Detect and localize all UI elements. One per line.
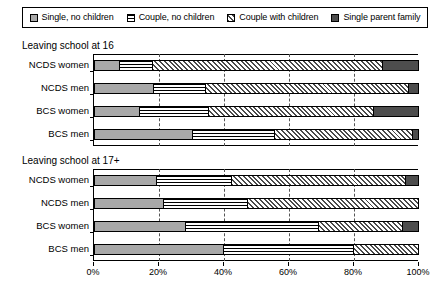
bar-segment-single-parent-family bbox=[408, 84, 418, 93]
y-axis-tick bbox=[90, 94, 94, 95]
legend-label-single: Single, no children bbox=[42, 13, 114, 22]
y-axis-label-bcs-men: BCS men bbox=[48, 129, 89, 139]
bar-segment-couple-with-children bbox=[247, 199, 418, 208]
y-axis-tick bbox=[90, 209, 94, 210]
x-axis-tick-40 bbox=[223, 262, 224, 266]
x-axis: 0%20%40%60%80%100% bbox=[93, 262, 418, 274]
legend-swatch-single-parent-family-icon bbox=[331, 14, 339, 22]
y-axis-label-bcs-men: BCS men bbox=[48, 244, 89, 254]
bar-segment-couple-with-children bbox=[231, 176, 405, 185]
bar-segment-couple-with-children bbox=[205, 84, 408, 93]
x-axis-label-40: 40% bbox=[214, 268, 232, 277]
x-axis-label-0: 0% bbox=[86, 268, 99, 277]
x-axis-label-60: 60% bbox=[279, 268, 297, 277]
bar-segment-couple bbox=[185, 222, 317, 231]
x-axis-tick-0 bbox=[93, 262, 94, 266]
bar-segment-single bbox=[95, 107, 139, 116]
legend-item-single: Single, no children bbox=[30, 13, 114, 22]
plot-bottom-border-panel-1 bbox=[94, 145, 418, 146]
x-axis-label-20: 20% bbox=[149, 268, 167, 277]
y-axis-tick bbox=[90, 140, 94, 141]
bar-segment-single bbox=[95, 176, 156, 185]
bar-segment-couple-with-children bbox=[353, 245, 418, 254]
y-axis-label-ncds-women: NCDS women bbox=[29, 60, 89, 70]
legend-swatch-couple-icon bbox=[127, 14, 135, 22]
bar-ncds-women bbox=[94, 175, 419, 186]
bar-segment-couple bbox=[223, 245, 354, 254]
bar-bcs-men bbox=[94, 244, 419, 255]
bar-segment-couple bbox=[163, 199, 247, 208]
chart-legend: Single, no children Couple, no children … bbox=[22, 7, 428, 28]
chart-root: Single, no children Couple, no children … bbox=[0, 0, 445, 297]
y-axis-label-ncds-women: NCDS women bbox=[29, 175, 89, 185]
bar-bcs-men bbox=[94, 129, 419, 140]
panel-title-leaving-school-at-17-plus: Leaving school at 17+ bbox=[22, 155, 120, 166]
x-axis-tick-60 bbox=[288, 262, 289, 266]
panel-title-leaving-school-at-16: Leaving school at 16 bbox=[22, 40, 114, 51]
plot-area-panel-1: NCDS womenNCDS menBCS womenBCS men bbox=[93, 54, 418, 146]
y-axis-label-bcs-women: BCS women bbox=[36, 221, 89, 231]
bar-segment-couple bbox=[139, 107, 208, 116]
x-axis-label-100: 100% bbox=[406, 268, 429, 277]
bar-segment-single bbox=[95, 199, 163, 208]
plot-area-panel-2: NCDS womenNCDS menBCS womenBCS men bbox=[93, 169, 418, 261]
bar-segment-single bbox=[95, 130, 192, 139]
legend-item-couple: Couple, no children bbox=[127, 13, 215, 22]
bar-segment-single-parent-family bbox=[402, 222, 418, 231]
plot-top-border-panel-1 bbox=[94, 54, 418, 55]
bar-ncds-men bbox=[94, 198, 419, 209]
bar-segment-single bbox=[95, 222, 185, 231]
bar-segment-single-parent-family bbox=[405, 176, 418, 185]
bar-segment-couple bbox=[156, 176, 230, 185]
bar-segment-couple bbox=[119, 61, 151, 70]
bar-segment-couple-with-children bbox=[152, 61, 383, 70]
legend-swatch-couple-with-children-icon bbox=[227, 14, 235, 22]
y-axis-tick bbox=[90, 186, 94, 187]
y-axis-tick bbox=[90, 71, 94, 72]
legend-swatch-single-icon bbox=[30, 14, 38, 22]
x-axis-tick-100 bbox=[418, 262, 419, 266]
y-axis-label-ncds-men: NCDS men bbox=[41, 83, 89, 93]
bar-ncds-women bbox=[94, 60, 419, 71]
bar-segment-single-parent-family bbox=[412, 130, 418, 139]
bar-bcs-women bbox=[94, 106, 419, 117]
legend-item-couple-with-children: Couple with children bbox=[227, 13, 318, 22]
x-axis-label-80: 80% bbox=[344, 268, 362, 277]
bar-segment-single-parent-family bbox=[382, 61, 418, 70]
bar-segment-couple-with-children bbox=[274, 130, 411, 139]
legend-item-single-parent-family: Single parent family bbox=[331, 13, 420, 22]
y-axis-tick bbox=[90, 117, 94, 118]
plot-bottom-border-panel-2 bbox=[94, 260, 418, 261]
y-axis-tick bbox=[90, 232, 94, 233]
bar-segment-single-parent-family bbox=[373, 107, 418, 116]
bar-ncds-men bbox=[94, 83, 419, 94]
x-axis-tick-80 bbox=[353, 262, 354, 266]
bar-segment-couple bbox=[192, 130, 274, 139]
bar-segment-single bbox=[95, 245, 223, 254]
y-axis-label-ncds-men: NCDS men bbox=[41, 198, 89, 208]
bar-segment-couple-with-children bbox=[208, 107, 373, 116]
bar-segment-couple bbox=[153, 84, 205, 93]
legend-label-couple-with-children: Couple with children bbox=[239, 13, 318, 22]
legend-label-couple: Couple, no children bbox=[139, 13, 215, 22]
y-axis-tick bbox=[90, 255, 94, 256]
plot-top-border-panel-2 bbox=[94, 169, 418, 170]
bar-segment-single bbox=[95, 61, 119, 70]
bar-segment-single bbox=[95, 84, 153, 93]
legend-label-single-parent-family: Single parent family bbox=[343, 13, 420, 22]
bar-segment-couple-with-children bbox=[318, 222, 402, 231]
bar-bcs-women bbox=[94, 221, 419, 232]
y-axis-label-bcs-women: BCS women bbox=[36, 106, 89, 116]
x-axis-tick-20 bbox=[158, 262, 159, 266]
